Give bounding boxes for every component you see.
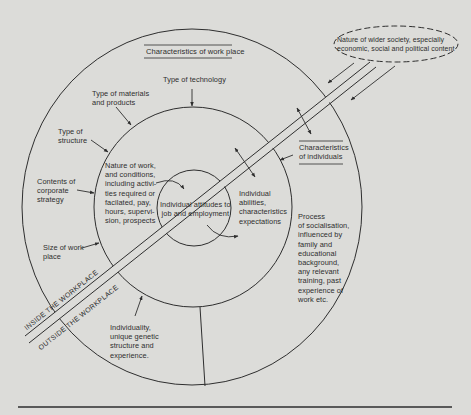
arrow-structure	[91, 140, 108, 152]
label-individual-abilities: Individual abilities, characteristics ex…	[239, 189, 287, 226]
label-nature-of-work: Nature of work, and conditions, includin…	[105, 161, 156, 225]
arrow-strategy	[77, 190, 94, 193]
label-socialisation: Process of socialisation, influenced by …	[298, 212, 349, 304]
label-contents-of-strategy: Contents of corporate strategy	[37, 177, 75, 205]
arrow-nature-to-attitudes	[156, 181, 184, 189]
label-wider-society: Nature of wider society, especially econ…	[337, 36, 454, 53]
label-type-of-technology: Type of technology	[163, 75, 226, 84]
work-attitudes-diagram	[0, 0, 471, 415]
arrow-individuals	[280, 155, 293, 160]
label-type-of-structure: Type of structure	[58, 127, 87, 145]
heading-individuals: Characteristics of individuals	[299, 143, 349, 161]
arrow-attitudes-to-abilities	[207, 225, 238, 237]
arrow-size	[82, 243, 99, 248]
label-center-attitudes: Individual attitudes to job and employme…	[160, 200, 231, 218]
label-type-of-materials: Type of materials and products	[92, 89, 149, 107]
divider-line	[200, 307, 205, 386]
arrow-society-right	[351, 66, 395, 100]
heading-work-place: Characteristics of work place	[146, 47, 245, 56]
label-individuality: Individuality, unique genetic structure …	[110, 323, 159, 360]
arrow-individuality	[135, 296, 142, 316]
label-size-of-work-place: Size of work place	[43, 243, 84, 261]
arrow-materials	[116, 107, 131, 125]
